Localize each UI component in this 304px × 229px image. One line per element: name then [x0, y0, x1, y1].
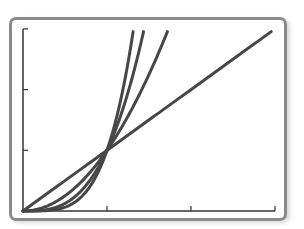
curves	[23, 32, 271, 211]
curve-y-x	[23, 32, 271, 211]
function-plot	[0, 0, 304, 229]
